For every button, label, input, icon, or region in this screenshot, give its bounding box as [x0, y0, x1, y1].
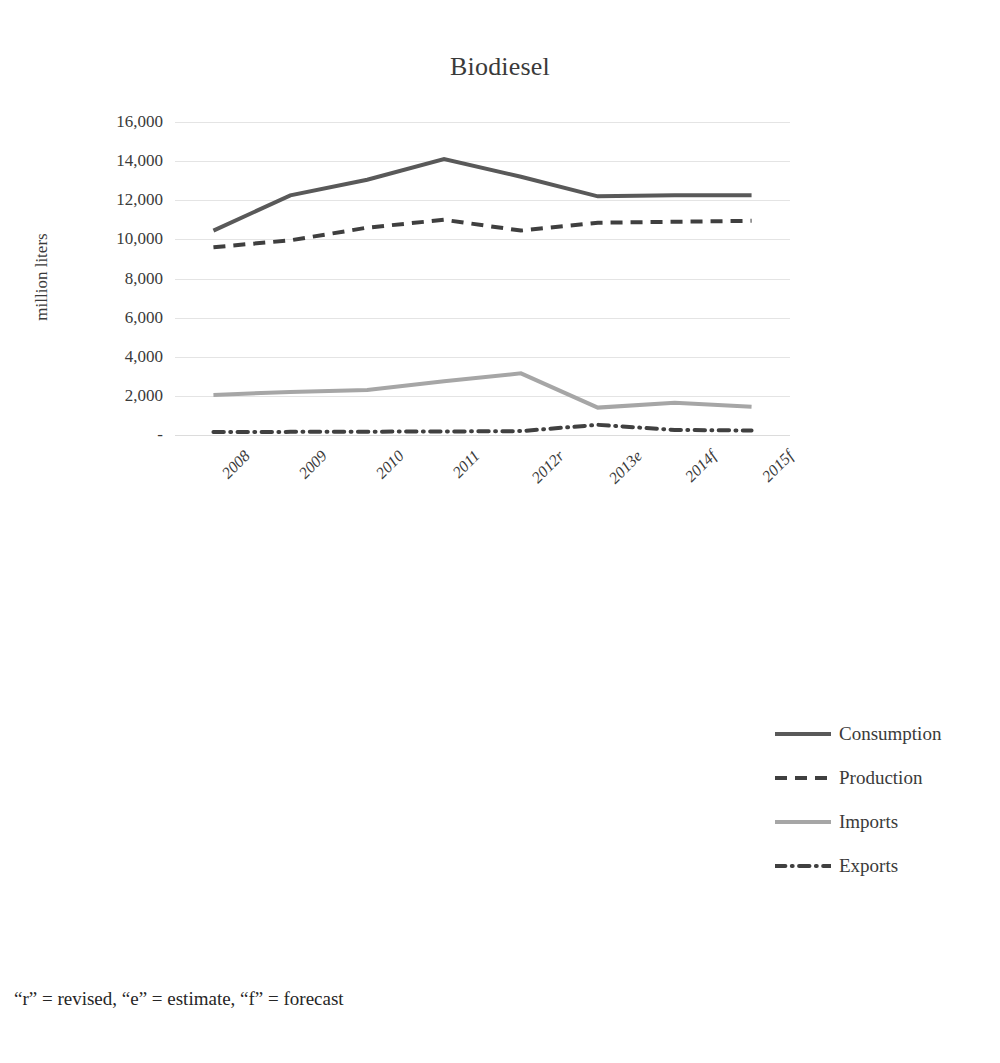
legend-item-label: Production — [839, 767, 922, 789]
y-axis-tick-label: 4,000 — [125, 347, 163, 367]
series-layer — [175, 122, 790, 435]
legend-item-exports[interactable]: Exports — [775, 844, 995, 888]
legend-swatch-icon — [775, 815, 831, 829]
biodiesel-plot-area: -2,0004,0006,0008,00010,00012,00014,0001… — [175, 122, 790, 435]
x-axis-tick-label: 2011 — [449, 447, 484, 482]
series-line-production — [213, 220, 751, 247]
y-axis-tick-label: - — [157, 425, 163, 445]
legend-item-production[interactable]: Production — [775, 756, 995, 800]
legend-item-label: Imports — [839, 811, 898, 833]
legend-swatch-icon — [775, 727, 831, 741]
footnote: “r” = revised, “e” = estimate, “f” = for… — [14, 988, 344, 1010]
biodiesel-y-axis-label: million liters — [32, 217, 52, 337]
biodiesel-chart-title: Biodiesel — [0, 52, 1000, 82]
x-axis-tick-label: 2015f — [758, 447, 797, 486]
series-line-imports — [213, 373, 751, 407]
legend-item-imports[interactable]: Imports — [775, 800, 995, 844]
legend-item-label: Consumption — [839, 723, 941, 745]
chart-legend: ConsumptionProductionImportsExports — [775, 712, 995, 888]
legend-item-consumption[interactable]: Consumption — [775, 712, 995, 756]
legend-item-label: Exports — [839, 855, 898, 877]
x-axis-tick-label: 2010 — [373, 447, 408, 482]
x-axis-tick-label: 2009 — [296, 447, 331, 482]
legend-swatch-icon — [775, 859, 831, 873]
x-axis-tick-label: 2012r — [528, 447, 568, 487]
y-axis-tick-label: 2,000 — [125, 386, 163, 406]
gridline — [175, 435, 790, 436]
series-line-exports — [213, 425, 751, 432]
x-axis-tick-label: 2013e — [605, 447, 645, 487]
x-axis-tick-label: 2008 — [219, 447, 254, 482]
y-axis-tick-label: 8,000 — [125, 269, 163, 289]
y-axis-tick-label: 12,000 — [116, 190, 163, 210]
x-axis-tick-label: 2014f — [681, 447, 720, 486]
y-axis-tick-label: 14,000 — [116, 151, 163, 171]
biodiesel-chart: Biodiesel million liters -2,0004,0006,00… — [0, 0, 1000, 530]
legend-swatch-icon — [775, 771, 831, 785]
y-axis-tick-label: 6,000 — [125, 308, 163, 328]
y-axis-tick-label: 10,000 — [116, 229, 163, 249]
y-axis-tick-label: 16,000 — [116, 112, 163, 132]
